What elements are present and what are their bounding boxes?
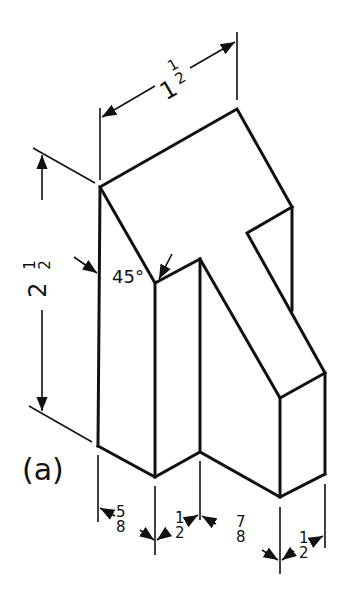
angle-label: 45°	[112, 268, 144, 286]
bottom-dim-3: 7 8	[236, 515, 246, 545]
bottom-dim-2-den: 2	[175, 526, 185, 541]
bottom-dim-2: 1 2	[175, 511, 185, 541]
height-fraction: 1 2	[23, 260, 53, 270]
object-outline	[98, 109, 325, 497]
bottom-dim-4: 1 2	[299, 531, 309, 561]
bottom-dim-3-den: 8	[236, 530, 246, 545]
figure-caption: (a)	[22, 455, 64, 485]
bottom-dim-1: 5 8	[116, 505, 126, 535]
bottom-dim-4-den: 2	[299, 546, 309, 561]
bottom-dim-1-den: 8	[116, 520, 126, 535]
height-whole: 2	[26, 282, 50, 297]
dimension-bottom	[98, 455, 325, 574]
height-den: 2	[38, 260, 53, 270]
